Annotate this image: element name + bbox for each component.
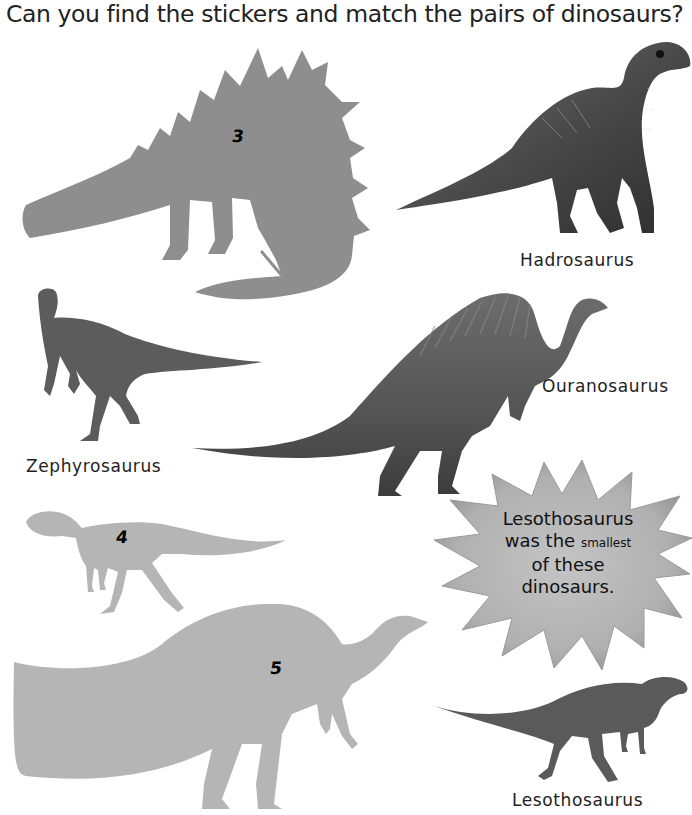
page-title: Can you find the stickers and match the … <box>6 0 692 28</box>
sticker-3-silhouette[interactable] <box>20 40 370 305</box>
fact-line-1: Lesothosaurus <box>468 508 668 530</box>
sticker-5-silhouette[interactable] <box>12 604 432 814</box>
hadrosaurus-image <box>392 38 692 238</box>
fact-line-2a: was the <box>505 530 575 551</box>
ouranosaurus-label: Ouranosaurus <box>542 376 669 396</box>
fact-line-3: of these <box>468 554 668 576</box>
lesothosaurus-label: Lesothosaurus <box>512 790 643 810</box>
hadrosaurus-label: Hadrosaurus <box>520 250 634 270</box>
fact-text: Lesothosaurus was the smallest of these … <box>468 508 668 598</box>
fact-line-4: dinosaurs. <box>468 576 668 598</box>
fact-line-2b: smallest <box>581 536 631 550</box>
fact-line-2: was the smallest <box>468 530 668 554</box>
sticker-4-silhouette[interactable] <box>22 508 290 616</box>
lesothosaurus-image <box>432 676 692 784</box>
zephyrosaurus-label: Zephyrosaurus <box>26 456 161 476</box>
